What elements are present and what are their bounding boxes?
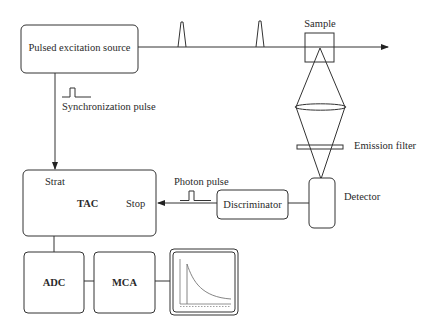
source-label: Pulsed excitation source — [28, 42, 130, 53]
photon-pulse-label: Photon pulse — [174, 176, 229, 187]
square-pulse-icon — [62, 88, 91, 97]
adc-label: ADC — [43, 277, 66, 288]
emission-filter-label: Emission filter — [354, 140, 417, 151]
emission-filter: Emission filter — [297, 140, 417, 151]
emission-light-cone — [296, 48, 345, 179]
tac-label: TAC — [77, 198, 98, 209]
sync-pulse-label: Synchronization pulse — [62, 101, 156, 112]
tac-stop-label: Stop — [126, 198, 145, 209]
adc-box: ADC — [24, 252, 84, 313]
tac-start-label: Strat — [45, 176, 65, 187]
discriminator-box: Discriminator — [217, 190, 288, 219]
pulse-peak-icon — [256, 21, 264, 47]
discriminator-label: Discriminator — [223, 199, 282, 210]
mca-box: MCA — [94, 252, 155, 313]
mca-label: MCA — [112, 277, 137, 288]
lens-icon — [295, 104, 346, 110]
square-pulse-icon — [180, 191, 211, 201]
tac-box: Strat TAC Stop — [23, 170, 156, 236]
sample-cuvette: Sample — [304, 18, 336, 62]
sample-label: Sample — [304, 18, 336, 29]
pulse-peak-icon — [178, 22, 186, 47]
tcspc-diagram: Pulsed excitation source Sample Emission… — [0, 0, 432, 334]
decay-curve-display-icon — [170, 249, 238, 315]
detector-box: Detector — [309, 178, 381, 228]
detector-label: Detector — [344, 191, 381, 202]
pulsed-excitation-source-box: Pulsed excitation source — [21, 25, 138, 73]
